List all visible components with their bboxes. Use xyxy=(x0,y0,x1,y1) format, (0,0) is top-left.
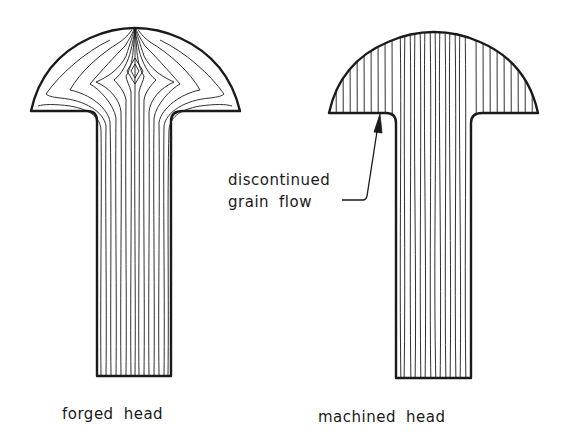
caption-forged-head: forgedhead xyxy=(62,405,163,423)
caption-word-head: head xyxy=(124,405,163,423)
leader-arrow xyxy=(342,114,382,200)
caption-word-forged: forged xyxy=(62,405,114,423)
annotation-word-grain: grain xyxy=(228,193,269,211)
annotation-word-flow: flow xyxy=(279,193,312,211)
caption-word-machined: machined xyxy=(318,408,396,426)
caption-word-head: head xyxy=(406,408,445,426)
forged-head-drawing xyxy=(31,28,240,376)
grain-flow-diagram xyxy=(0,0,567,445)
machined-head-drawing xyxy=(329,20,538,390)
annotation-discontinued: discontinued xyxy=(228,171,330,189)
annotation-grain-flow: grainflow xyxy=(228,193,312,211)
caption-machined-head: machinedhead xyxy=(318,408,445,426)
